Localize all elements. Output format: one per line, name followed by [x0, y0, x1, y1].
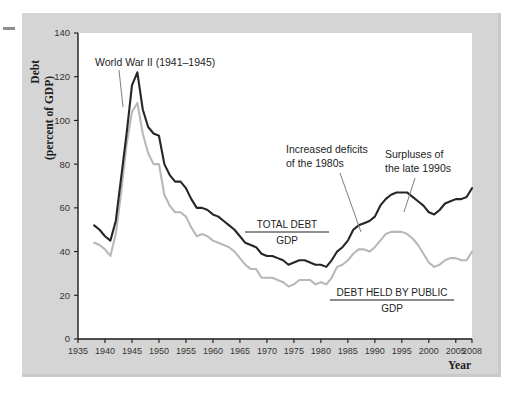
x-tick-label: 1995 — [392, 346, 412, 356]
series-label-public-debt-denominator: GDP — [381, 303, 403, 314]
series-label-total-debt: TOTAL DEBT GDP — [245, 219, 329, 246]
x-tick-label: 1980 — [311, 346, 331, 356]
x-tick-label: 1935 — [68, 346, 88, 356]
series-label-public-debt-numerator: DEBT HELD BY PUBLIC — [337, 287, 448, 298]
annotation-deficits-line1: Increased deficits — [286, 143, 368, 155]
y-tick-label: 80 — [59, 159, 70, 170]
x-tick-label: 1975 — [284, 346, 304, 356]
y-tick-label: 60 — [59, 202, 70, 213]
x-tick-label: 1990 — [365, 346, 385, 356]
annotation-surpluses-leader-line — [404, 178, 415, 212]
chart-svg: Debt (percent of GDP) 020406080100120140… — [0, 0, 514, 395]
y-tick-label: 140 — [54, 27, 70, 38]
x-axis-ticks: 1935194019451950195519601965197019751980… — [68, 339, 482, 356]
x-tick-label: 1965 — [230, 346, 250, 356]
annotation-surpluses-line2: the late 1990s — [385, 162, 451, 174]
x-axis-title: Year — [448, 359, 471, 371]
series-label-public-debt: DEBT HELD BY PUBLIC GDP — [330, 287, 454, 314]
annotation-increased-deficits: Increased deficits of the 1980s — [286, 143, 368, 169]
x-tick-label: 2000 — [419, 346, 439, 356]
series-label-total-debt-denominator: GDP — [276, 235, 298, 246]
data-series-group — [94, 72, 472, 286]
x-tick-label: 1945 — [122, 346, 142, 356]
annotation-surpluses: Surpluses of the late 1990s — [385, 148, 451, 174]
y-tick-label: 100 — [54, 115, 70, 126]
annotation-deficits-line2: of the 1980s — [286, 157, 344, 169]
x-tick-label: 1960 — [203, 346, 223, 356]
x-tick-label: 1950 — [149, 346, 169, 356]
x-tick-label: 1940 — [95, 346, 115, 356]
x-tick-label: 1970 — [257, 346, 277, 356]
annotation-world-war-ii: World War II (1941–1945) — [95, 56, 215, 68]
y-tick-label: 0 — [65, 333, 70, 344]
series-label-total-debt-numerator: TOTAL DEBT — [257, 219, 317, 230]
annotation-wwii-text: World War II (1941–1945) — [95, 56, 215, 68]
annotation-surpluses-line1: Surpluses of — [385, 148, 443, 160]
annotation-wwii-leader-line — [119, 70, 123, 107]
debt-to-gdp-chart-figure: Debt (percent of GDP) 020406080100120140… — [0, 0, 514, 395]
y-axis-title: Debt (percent of GDP) — [29, 60, 56, 160]
y-axis-title-line1: Debt — [29, 60, 41, 84]
x-tick-label: 2008 — [462, 346, 482, 356]
y-tick-label: 40 — [59, 246, 70, 257]
y-axis-ticks: 020406080100120140 — [54, 27, 78, 344]
x-tick-label: 1985 — [338, 346, 358, 356]
y-tick-label: 20 — [59, 290, 70, 301]
x-tick-label: 1955 — [176, 346, 196, 356]
y-tick-label: 120 — [54, 71, 70, 82]
annotation-deficits-leader-line — [340, 173, 361, 232]
